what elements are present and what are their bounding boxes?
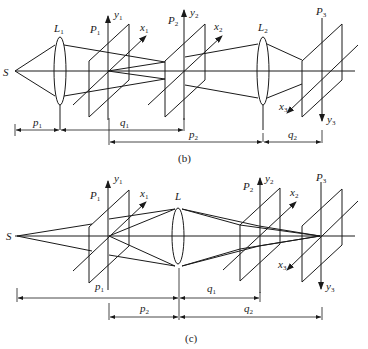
axis-x2-label: x2 — [213, 20, 223, 34]
source-label-c: S — [6, 230, 12, 242]
source-label: S — [3, 66, 9, 78]
caption-b: (b) — [178, 152, 191, 165]
optics-figure: S L1 P1 y1 x1 P2 y2 x2 — [0, 0, 368, 349]
axis-x3-label: x3 — [278, 100, 288, 114]
axis-y1-label: y1 — [113, 8, 123, 22]
dimension-lines-b — [15, 118, 322, 145]
diagram-b: S L1 P1 y1 x1 P2 y2 x2 — [3, 5, 358, 165]
plane-p2-c-label: P2 — [242, 180, 254, 194]
plane-p3-label: P3 — [315, 5, 327, 19]
axis-x2-c-label: x2 — [289, 186, 299, 200]
rays-source-to-lens — [17, 209, 175, 266]
axis-x1-label: x1 — [139, 21, 149, 35]
axis-y2-c-label: y2 — [264, 172, 274, 186]
dimension-lines-c — [17, 268, 322, 320]
lens-2-label: L2 — [257, 21, 268, 35]
dim-p2-c-label: p2 — [139, 302, 150, 316]
plane-p1-c-label: P1 — [89, 189, 101, 203]
axis-y1-c-label: y1 — [113, 172, 123, 186]
dim-q2-c-label: q2 — [244, 302, 254, 316]
caption-c: (c) — [185, 332, 198, 345]
dim-q1-c-label: q1 — [207, 282, 217, 296]
dim-q2-label: q2 — [288, 128, 298, 142]
plane-p3-c-label: P3 — [315, 171, 327, 185]
dim-p2-label: p2 — [188, 128, 199, 142]
lens-1-label: L1 — [53, 22, 64, 36]
axis-y2-label: y2 — [189, 6, 199, 20]
dim-p1-label: p1 — [32, 116, 43, 130]
axis-y3-label: y3 — [326, 113, 336, 127]
axis-x3-c-label: x3 — [277, 258, 287, 272]
plane-p2-label: P2 — [167, 14, 179, 28]
diagram-c: S P1 y1 x1 p1 L — [6, 171, 358, 345]
lens-c-label: L — [174, 190, 181, 202]
plane-p1-label: P1 — [89, 23, 101, 37]
axis-x1-c-label: x1 — [139, 187, 149, 201]
plane-p1-c-bottom-label: p1 — [94, 280, 105, 294]
axis-y3-c-label: y3 — [325, 280, 335, 294]
dim-q1-label: q1 — [120, 116, 130, 130]
